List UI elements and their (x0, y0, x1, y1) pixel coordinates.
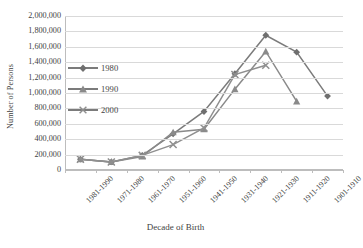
legend-label-1980: 1980 (101, 63, 118, 73)
legend-item-1980: 1980 (68, 57, 118, 78)
legend-item-1990: 1990 (68, 78, 118, 99)
legend-item-2000: 2000 (68, 99, 118, 120)
y-tick-label: 200,000 (34, 150, 61, 158)
y-tick-label: 600,000 (34, 120, 61, 128)
y-tick-label: 1,000,000 (28, 89, 61, 97)
legend-label-2000: 2000 (101, 105, 118, 115)
x-tick-label: 1901-1910 (332, 174, 363, 205)
x-tick (343, 170, 344, 173)
gridline (65, 170, 343, 171)
y-axis-title-text: Number of Persons (6, 64, 15, 129)
gridline (65, 155, 343, 156)
gridline (65, 16, 343, 17)
legend-marker-diamond-icon (68, 63, 98, 73)
y-tick-label: 1,400,000 (28, 58, 61, 66)
data-point-marker-2000 (170, 141, 177, 148)
x-tick-label: 1921-1930 (270, 174, 301, 205)
y-tick-label: 2,000,000 (28, 12, 61, 20)
x-axis-title: Decade of Birth (0, 222, 351, 232)
y-tick-label: 1,800,000 (28, 27, 61, 35)
y-tick-label: 1,600,000 (28, 43, 61, 51)
legend-marker-x-icon (68, 105, 98, 115)
x-tick-label: 1941-1950 (208, 174, 239, 205)
legend-marker-triangle-icon (68, 84, 98, 94)
x-tick-label: 1981-1990 (85, 174, 116, 205)
x-tick-label: 1951-1960 (177, 174, 208, 205)
data-point-marker-1990 (262, 48, 269, 55)
chart-legend: 1980 1990 2000 (68, 57, 118, 120)
legend-label-1990: 1990 (101, 84, 118, 94)
x-tick-label: 1911-1920 (301, 174, 332, 205)
y-tick-label: 800,000 (34, 104, 61, 112)
gridline (65, 124, 343, 125)
gridline (65, 31, 343, 32)
y-tick-label: 400,000 (34, 135, 61, 143)
x-axis-tick-labels: 1981-19901971-19801961-19701951-19601941… (65, 172, 343, 218)
y-axis-tick-labels: 0200,000400,000600,000800,0001,000,0001,… (16, 14, 63, 172)
gridline (65, 139, 343, 140)
y-tick-label: 0 (57, 166, 61, 174)
data-point-marker-1990 (293, 98, 300, 105)
x-tick-label: 1961-1970 (146, 174, 177, 205)
x-tick-label: 1931-1940 (239, 174, 270, 205)
x-tick-label: 1971-1980 (115, 174, 146, 205)
gridline (65, 47, 343, 48)
y-tick-label: 1,200,000 (28, 73, 61, 81)
